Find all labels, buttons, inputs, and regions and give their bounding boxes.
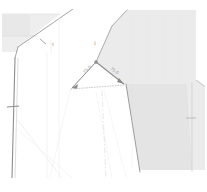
tick-label-right-group: i [94, 39, 96, 47]
dimension-label-left: 75.0 [82, 64, 92, 74]
dimension-leg-left [72, 62, 96, 88]
right-lower-body [126, 82, 196, 172]
left-band-fill [0, 14, 30, 36]
center-vertical-guides [47, 12, 59, 178]
construction-line-diag-2 [16, 128, 72, 178]
left-vertical-edge-inner [15, 58, 18, 178]
construction-line-diag-1 [16, 118, 62, 178]
margin-top [0, 0, 207, 9]
construction-line-diag-4 [96, 92, 112, 178]
left-vertical-edge [12, 58, 15, 178]
construction-line-diag-5 [104, 90, 126, 178]
right-lower-fill [126, 84, 192, 170]
tick-label-left: t [52, 40, 54, 48]
tick-mark-vertical-left [7, 106, 19, 107]
margin-left [0, 0, 2, 192]
construction-lines [16, 90, 126, 178]
cad-drawing-canvas: t i [0, 0, 207, 192]
dimension-baseline-dotted [71, 85, 125, 89]
tick-mark-diagonal-left [40, 39, 46, 44]
margin-bottom [0, 178, 207, 192]
margin-right [205, 0, 207, 192]
tick-label-left-group: t [51, 40, 54, 53]
construction-line-diag-3 [50, 90, 70, 178]
tick-label-right: i [94, 39, 96, 47]
